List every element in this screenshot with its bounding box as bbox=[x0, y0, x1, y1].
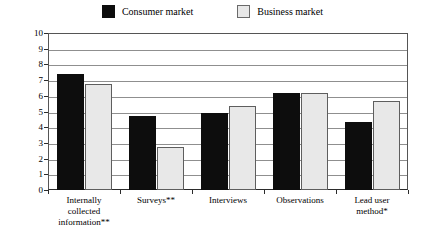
bar-chart: Consumer market Business market Use of t… bbox=[0, 0, 425, 237]
legend-swatch-filled-black-square-icon bbox=[102, 5, 115, 18]
bars-layer bbox=[48, 33, 408, 190]
x-axis-category-label: Interviews bbox=[192, 195, 264, 206]
bar-group bbox=[48, 33, 120, 190]
bar-consumer-market bbox=[273, 93, 300, 190]
x-axis-category-label: Surveys** bbox=[120, 195, 192, 206]
x-tick-mark bbox=[408, 190, 409, 194]
bar-group bbox=[264, 33, 336, 190]
x-tick-mark bbox=[336, 190, 337, 194]
y-tick-label: 0 bbox=[21, 186, 43, 195]
y-tick-label: 6 bbox=[21, 92, 43, 101]
bar-consumer-market bbox=[129, 116, 156, 190]
x-tick-mark bbox=[120, 190, 121, 194]
bar-group bbox=[120, 33, 192, 190]
legend-entry-business-market: Business market bbox=[237, 5, 323, 18]
y-tick-label: 9 bbox=[21, 45, 43, 54]
chart-legend: Consumer market Business market bbox=[0, 5, 425, 18]
y-tick-label: 4 bbox=[21, 123, 43, 132]
y-tick-label: 8 bbox=[21, 60, 43, 69]
x-axis-category-label: Observations bbox=[264, 195, 336, 206]
legend-label-business-market: Business market bbox=[257, 6, 323, 17]
legend-label-consumer-market: Consumer market bbox=[122, 6, 193, 17]
bar-business-market bbox=[157, 147, 184, 190]
x-axis-category-label-line: collected bbox=[48, 206, 120, 217]
y-tick-label: 5 bbox=[21, 108, 43, 117]
x-axis-category-label-line: Surveys** bbox=[120, 195, 192, 206]
bar-group bbox=[192, 33, 264, 190]
y-tick-label: 2 bbox=[21, 155, 43, 164]
legend-swatch-outlined-gray-square-icon bbox=[237, 5, 250, 18]
x-axis-category-label-line: method* bbox=[336, 206, 408, 217]
bar-group bbox=[336, 33, 408, 190]
x-axis-category-label-line: information** bbox=[48, 217, 120, 228]
y-tick-label: 7 bbox=[21, 76, 43, 85]
bar-business-market bbox=[373, 101, 400, 190]
y-tick-label: 10 bbox=[21, 29, 43, 38]
x-axis-category-label-line: Internally bbox=[48, 195, 120, 206]
x-axis-category-label-line: Observations bbox=[264, 195, 336, 206]
x-axis-category-label-line: Lead user bbox=[336, 195, 408, 206]
y-tick-label: 3 bbox=[21, 139, 43, 148]
x-axis-category-label: Internallycollectedinformation** bbox=[48, 195, 120, 228]
bar-business-market bbox=[229, 106, 256, 190]
x-tick-mark bbox=[264, 190, 265, 194]
bar-business-market bbox=[85, 84, 112, 190]
bar-consumer-market bbox=[57, 74, 84, 190]
x-axis-category-label: Lead usermethod* bbox=[336, 195, 408, 217]
legend-entry-consumer-market: Consumer market bbox=[102, 5, 193, 18]
x-tick-mark bbox=[192, 190, 193, 194]
bar-consumer-market bbox=[345, 122, 372, 190]
x-tick-mark bbox=[48, 190, 49, 194]
y-tick-label: 1 bbox=[21, 170, 43, 179]
x-axis-category-label-line: Interviews bbox=[192, 195, 264, 206]
bar-consumer-market bbox=[201, 113, 228, 190]
bar-business-market bbox=[301, 93, 328, 190]
